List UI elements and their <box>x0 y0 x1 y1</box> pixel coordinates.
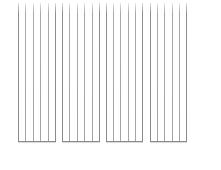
vertical-line <box>142 3 143 142</box>
vertical-line <box>179 3 180 142</box>
line-group-1 <box>18 0 56 143</box>
vertical-line <box>33 3 34 142</box>
vertical-line <box>40 3 41 142</box>
vertical-line <box>92 3 93 142</box>
vertical-line <box>69 3 70 142</box>
group-base-shadow <box>106 142 143 143</box>
vertical-line <box>55 3 56 142</box>
vertical-line <box>135 3 136 142</box>
vertical-line <box>62 3 63 142</box>
line-group-4 <box>150 0 187 143</box>
vertical-line <box>186 3 187 142</box>
vertical-line <box>77 3 78 142</box>
vertical-line <box>18 3 19 142</box>
vertical-line <box>106 3 107 142</box>
vertical-line <box>84 3 85 142</box>
vertical-line <box>157 3 158 142</box>
vertical-line <box>48 3 49 142</box>
vertical-line <box>150 3 151 142</box>
vertical-line <box>113 3 114 142</box>
vertical-line <box>99 3 100 142</box>
group-base-shadow <box>150 142 187 143</box>
vertical-line <box>25 3 26 142</box>
line-group-2 <box>62 0 100 143</box>
vertical-line <box>128 3 129 142</box>
line-group-3 <box>106 0 143 143</box>
vertical-line <box>172 3 173 142</box>
group-base-shadow <box>62 142 100 143</box>
vertical-line <box>120 3 121 142</box>
group-base-shadow <box>18 142 56 143</box>
vertical-line <box>164 3 165 142</box>
